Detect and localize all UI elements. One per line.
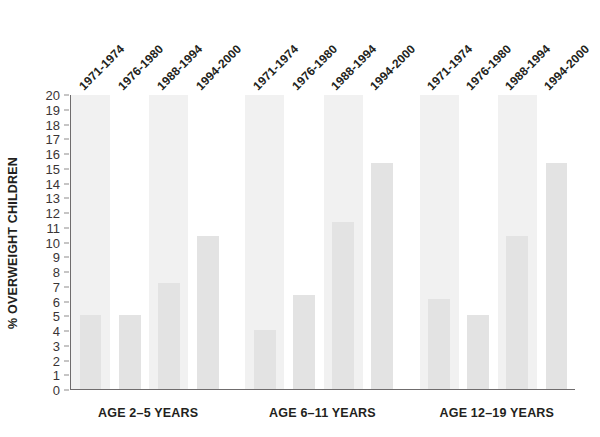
bar: [254, 330, 276, 389]
y-axis-tick-13: 13: [46, 192, 60, 205]
y-axis-tick-mark-3: [64, 345, 69, 346]
plot-inner: [71, 95, 575, 389]
y-axis-tick-1: 1: [53, 369, 60, 382]
y-axis-tick-mark-9: [64, 257, 69, 258]
y-axis-tick-19: 19: [46, 103, 60, 116]
y-axis-tick-mark-20: [64, 95, 69, 96]
y-axis-tick-14: 14: [46, 177, 60, 190]
y-axis-tick-mark-10: [64, 242, 69, 243]
y-axis-tick-mark-5: [64, 316, 69, 317]
bar: [158, 283, 180, 389]
y-axis-tick-6: 6: [53, 295, 60, 308]
y-axis-tick-16: 16: [46, 148, 60, 161]
y-axis-tick-8: 8: [53, 266, 60, 279]
y-axis-tick-5: 5: [53, 310, 60, 323]
y-axis-tick-15: 15: [46, 162, 60, 175]
y-axis-tick-17: 17: [46, 133, 60, 146]
x-axis-period-labels: 1971-19741976-19801988-19941994-20001971…: [70, 0, 575, 95]
y-axis-tick-mark-15: [64, 168, 69, 169]
y-axis-tick-mark-14: [64, 183, 69, 184]
y-axis-tick-11: 11: [47, 221, 61, 234]
y-axis-tick-7: 7: [53, 280, 60, 293]
bar: [546, 163, 568, 389]
bar: [293, 295, 315, 389]
y-axis-tick-3: 3: [53, 339, 60, 352]
y-axis-tick-mark-16: [64, 154, 69, 155]
bar: [119, 315, 141, 389]
y-axis-tick-9: 9: [53, 251, 60, 264]
bar: [428, 299, 450, 389]
y-axis-tick-2: 2: [53, 354, 60, 367]
bar: [332, 222, 354, 389]
y-axis-title: % OVERWEIGHT CHILDREN: [0, 95, 26, 390]
y-axis-tick-mark-4: [64, 331, 69, 332]
group-label: AGE 6–11 YEARS: [244, 406, 400, 420]
y-axis-tick-mark-11: [64, 227, 69, 228]
x-axis-group-labels: AGE 2–5 YEARSAGE 6–11 YEARSAGE 12–19 YEA…: [70, 406, 575, 430]
y-axis-tick-mark-1: [64, 375, 69, 376]
y-axis-tick-10: 10: [46, 236, 60, 249]
group-label: AGE 12–19 YEARS: [419, 406, 575, 420]
y-axis-tick-mark-2: [64, 360, 69, 361]
y-axis-tick-mark-0: [64, 390, 69, 391]
y-axis-tick-mark-6: [64, 301, 69, 302]
bar: [371, 163, 393, 389]
y-axis-tick-mark-19: [64, 109, 69, 110]
y-axis-title-text: % OVERWEIGHT CHILDREN: [6, 156, 20, 328]
y-axis-tick-mark-7: [64, 286, 69, 287]
y-axis-tick-12: 12: [46, 207, 60, 220]
bar: [80, 315, 102, 389]
bar: [197, 236, 219, 389]
y-axis-tick-4: 4: [53, 325, 60, 338]
y-axis-tick-18: 18: [46, 118, 60, 131]
bar: [467, 315, 489, 389]
y-axis-tick-mark-13: [64, 198, 69, 199]
y-axis-tick-labels: 20191817161514131211109876543210: [28, 95, 64, 390]
y-axis-tick-mark-12: [64, 213, 69, 214]
y-axis-tick-0: 0: [53, 384, 60, 397]
y-axis-tick-mark-8: [64, 272, 69, 273]
y-axis-tick-mark-17: [64, 139, 69, 140]
plot-area: [70, 95, 575, 390]
overweight-children-bar-chart: % OVERWEIGHT CHILDREN 201918171615141312…: [0, 0, 600, 437]
y-axis-tick-20: 20: [46, 89, 60, 102]
bar: [506, 236, 528, 389]
group-label: AGE 2–5 YEARS: [70, 406, 226, 420]
y-axis-tick-mark-18: [64, 124, 69, 125]
